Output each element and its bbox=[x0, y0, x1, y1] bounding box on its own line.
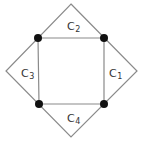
vertex-dot-top-right bbox=[100, 34, 108, 42]
region-label-c4: C4 bbox=[67, 112, 80, 126]
corner-dots bbox=[34, 34, 108, 108]
inner-square bbox=[38, 38, 104, 104]
vertex-dot-bottom-right bbox=[100, 100, 108, 108]
vertex-dot-bottom-left bbox=[35, 100, 43, 108]
region-label-c2: C2 bbox=[67, 20, 80, 34]
region-label-c1: C1 bbox=[109, 67, 122, 81]
inner-square-outline bbox=[38, 38, 104, 104]
diagram-canvas: C1C2C3C4 bbox=[0, 0, 146, 143]
vertex-dot-top-left bbox=[34, 34, 42, 42]
region-label-c3: C3 bbox=[21, 67, 34, 81]
